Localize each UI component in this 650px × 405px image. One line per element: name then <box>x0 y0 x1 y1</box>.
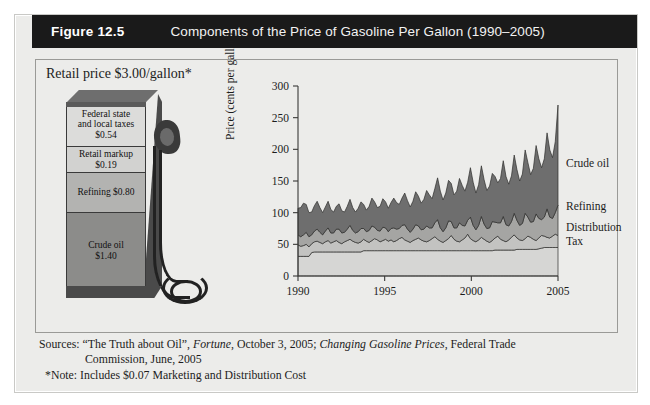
sources-footnote: *Note: Includes $0.07 Marketing and Dist… <box>39 368 619 383</box>
figure-number: Figure 12.5 <box>51 24 124 39</box>
pump-band-refining: Refining $0.80 <box>67 173 145 213</box>
svg-text:2000: 2000 <box>460 285 483 297</box>
svg-text:2005: 2005 <box>547 285 570 297</box>
pump-band-tax-line3: $0.54 <box>95 130 116 141</box>
pump-hose-curl-inner <box>170 280 202 303</box>
pump-band-markup-line1: Retail markup <box>79 149 133 160</box>
svg-text:250: 250 <box>272 112 290 124</box>
pump-band-tax: Federal state and local taxes $0.54 <box>67 103 145 147</box>
series-label-crude-oil: Crude oil <box>566 157 609 169</box>
pump-band-tax-line1: Federal state <box>82 109 130 120</box>
gas-pump-graphic: Federal state and local taxes $0.54 Reta… <box>58 90 203 312</box>
svg-text:300: 300 <box>272 80 290 92</box>
figure-title-bar: Figure 12.5 Components of the Price of G… <box>32 15 637 48</box>
series-label-distribution: Distribution <box>566 221 622 233</box>
sources-line1-part-b: , October 3, 2005; <box>231 337 319 351</box>
svg-text:100: 100 <box>272 207 290 219</box>
figure-card: Figure 12.5 Components of the Price of G… <box>14 14 638 393</box>
sources-note: Sources: “The Truth about Oil”, Fortune,… <box>39 337 619 383</box>
pump-band-crude-line1: Crude oil <box>88 240 124 251</box>
figure-body-panel: Retail price $3.00/gallon* Federal state… <box>35 59 618 333</box>
retail-price-label: Retail price $3.00/gallon* <box>46 66 192 82</box>
svg-text:1995: 1995 <box>373 285 396 297</box>
pump-band-tax-line2: and local taxes <box>78 119 134 130</box>
svg-text:50: 50 <box>278 238 290 250</box>
stacked-area-chart: Price (cents per gallon) 050100150200250… <box>226 76 606 326</box>
svg-text:200: 200 <box>272 143 290 155</box>
svg-text:150: 150 <box>272 175 290 187</box>
pump-band-markup-line2: $0.19 <box>95 160 116 171</box>
pump-band-crude-line2: $1.40 <box>95 251 116 262</box>
svg-text:1990: 1990 <box>287 285 310 297</box>
sources-line1-part-c: , Federal Trade <box>445 337 516 351</box>
pump-band-crude: Crude oil $1.40 <box>67 213 145 288</box>
pump-top-stripe <box>66 102 146 107</box>
sources-line1-part-a: Sources: “The Truth about Oil”, <box>39 337 193 351</box>
series-label-refining: Refining <box>566 200 606 212</box>
pump-hose-secondary <box>159 150 188 283</box>
pump-band-markup: Retail markup $0.19 <box>67 147 145 173</box>
sources-italic-changing-gasoline-prices: Changing Gasoline Prices <box>319 337 444 351</box>
sources-italic-fortune: Fortune <box>193 337 231 351</box>
chart-canvas: 0501001502002503001990199520002005 <box>226 76 606 326</box>
sources-line2: Commission, June, 2005 <box>39 352 619 367</box>
pump-body: Federal state and local taxes $0.54 Reta… <box>66 102 146 288</box>
pump-base <box>66 286 162 298</box>
pump-band-refining-line1: Refining $0.80 <box>78 187 135 198</box>
series-label-tax: Tax <box>566 235 583 247</box>
svg-text:0: 0 <box>283 270 289 282</box>
